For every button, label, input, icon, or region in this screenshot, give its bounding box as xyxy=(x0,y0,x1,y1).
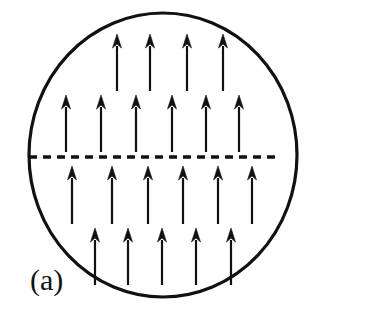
arrow-lower-middle-row-1 xyxy=(108,166,117,224)
arrow-lower-middle-row-0 xyxy=(68,166,77,224)
panel-label: (a) xyxy=(30,263,63,297)
arrow-top-row-1 xyxy=(146,34,155,91)
arrow-head xyxy=(219,34,228,48)
arrow-top-row-0 xyxy=(113,34,122,91)
arrow-upper-middle-row-0 xyxy=(62,95,71,152)
arrow-upper-middle-row-1 xyxy=(97,95,106,152)
arrow-head xyxy=(68,166,77,180)
arrow-head xyxy=(113,34,122,48)
arrow-head xyxy=(97,95,106,109)
arrow-head xyxy=(132,95,141,109)
arrow-top-row-2 xyxy=(183,34,192,91)
arrow-head xyxy=(179,166,188,180)
arrow-upper-middle-row-5 xyxy=(235,95,244,152)
arrow-upper-middle-row-3 xyxy=(168,95,177,152)
arrow-head xyxy=(168,95,177,109)
arrow-head xyxy=(192,228,201,242)
arrow-head xyxy=(158,228,167,242)
arrow-head xyxy=(124,228,133,242)
arrow-head xyxy=(108,166,117,180)
arrow-field-group xyxy=(62,34,257,285)
arrow-lower-middle-row-2 xyxy=(144,166,153,224)
arrow-bottom-row-1 xyxy=(124,228,133,285)
arrow-lower-middle-row-4 xyxy=(214,166,223,224)
arrow-head xyxy=(144,166,153,180)
arrow-lower-middle-row-3 xyxy=(179,166,188,224)
arrow-head xyxy=(183,34,192,48)
arrow-bottom-row-2 xyxy=(158,228,167,285)
arrow-top-row-3 xyxy=(219,34,228,91)
arrow-upper-middle-row-2 xyxy=(132,95,141,152)
arrow-head xyxy=(146,34,155,48)
arrow-head xyxy=(248,166,257,180)
figure-panel-a: (a) xyxy=(0,0,373,312)
arrow-head xyxy=(202,95,211,109)
arrow-head xyxy=(227,228,236,242)
arrow-head xyxy=(235,95,244,109)
arrow-bottom-row-3 xyxy=(192,228,201,285)
arrow-head xyxy=(62,95,71,109)
arrow-lower-middle-row-5 xyxy=(248,166,257,224)
arrow-upper-middle-row-4 xyxy=(202,95,211,152)
arrow-head xyxy=(214,166,223,180)
arrow-head xyxy=(91,228,100,242)
figure-canvas: (a) xyxy=(0,0,373,312)
